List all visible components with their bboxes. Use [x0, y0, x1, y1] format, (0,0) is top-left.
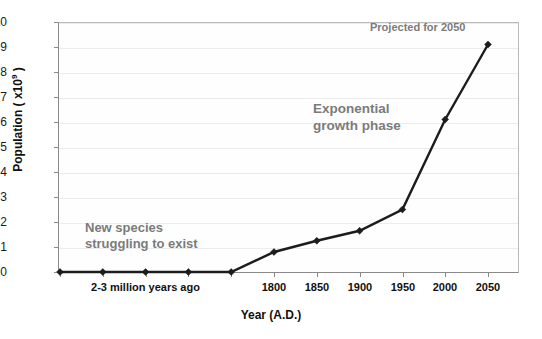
series-marker — [99, 269, 106, 276]
series-marker — [57, 269, 64, 276]
series-marker — [313, 237, 320, 244]
series-layer — [0, 0, 542, 339]
series-marker — [185, 269, 192, 276]
population-growth-chart: 10 9 8 7 6 5 4 3 2 1 0 2-3 million years… — [0, 0, 542, 339]
series-marker — [142, 269, 149, 276]
series-line-world-population — [60, 45, 488, 273]
